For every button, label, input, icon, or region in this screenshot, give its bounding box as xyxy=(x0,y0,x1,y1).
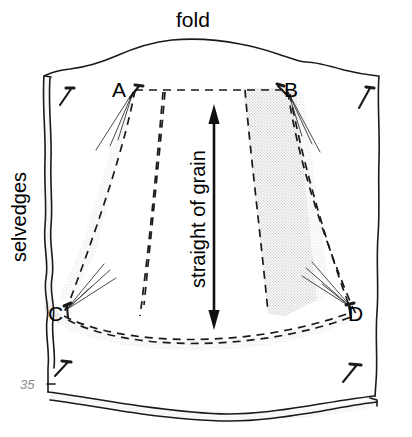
fabric-layout-figure: fold selvedges straight of grain A B C D… xyxy=(0,0,412,437)
label-point-a: A xyxy=(112,79,126,100)
label-straight-of-grain: straight of grain xyxy=(188,150,208,288)
page-number: 35 xyxy=(20,378,34,391)
label-selvedges: selvedges xyxy=(9,172,29,262)
label-fold: fold xyxy=(176,9,210,30)
label-point-b: B xyxy=(284,79,298,100)
label-point-d: D xyxy=(348,303,363,324)
label-point-c: C xyxy=(48,303,63,324)
